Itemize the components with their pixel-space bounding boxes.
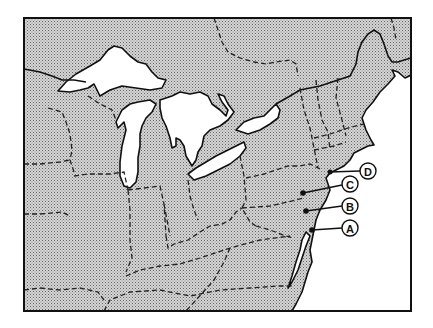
- map: D C B A: [0, 0, 433, 328]
- marker-label-b[interactable]: B: [342, 198, 358, 214]
- leader-line-d: [330, 171, 360, 172]
- marker-label-a-text: A: [346, 223, 354, 235]
- marker-label-b-text: B: [346, 201, 354, 213]
- marker-label-a[interactable]: A: [342, 220, 358, 236]
- marker-label-d-text: D: [364, 166, 372, 178]
- marker-label-c[interactable]: C: [342, 176, 358, 192]
- marker-label-c-text: C: [346, 179, 354, 191]
- marker-label-d[interactable]: D: [360, 163, 376, 179]
